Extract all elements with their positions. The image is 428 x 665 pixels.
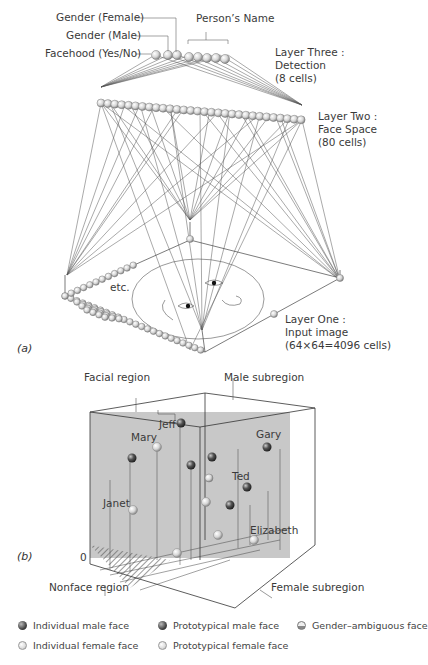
facial-region-label: Facial region <box>84 371 150 384</box>
persons-name-label: Person’s Name <box>196 12 274 25</box>
layer-three-label: Layer Three : Detection (8 cells) <box>275 46 345 85</box>
prototypical-male-point <box>208 453 217 462</box>
female-point <box>173 549 182 558</box>
layer3-to-layer2-connections <box>101 55 302 105</box>
individual-male-face-icon <box>18 621 27 630</box>
name-jeff: Jeff <box>159 418 176 431</box>
layer-two-cells <box>97 99 305 124</box>
name-mary: Mary <box>131 431 157 444</box>
network-diagram <box>65 55 340 352</box>
gender-ambiguous-point <box>205 474 213 482</box>
face-space-cube <box>90 378 315 608</box>
etc-label: etc. <box>110 281 130 294</box>
panel-a-label: (a) <box>17 342 32 355</box>
name-janet: Janet <box>103 497 130 510</box>
nonface-region-label: Nonface region <box>49 581 129 594</box>
male-point <box>128 454 137 463</box>
legend-prototypical-female: Prototypical female face <box>158 640 288 651</box>
name-ted: Ted <box>232 470 250 483</box>
gender-ambiguous-face-icon <box>297 621 306 630</box>
legend-prototypical-male: Prototypical male face <box>158 620 279 631</box>
layer-one-cells <box>62 262 204 353</box>
prototypical-female-face-icon <box>158 641 167 650</box>
gary-point <box>263 443 272 452</box>
legend-individual-female: Individual female face <box>18 640 138 651</box>
left-eye-pixel <box>186 304 190 308</box>
layer-three-cells <box>152 51 230 64</box>
name-gary: Gary <box>256 428 281 441</box>
female-point <box>214 531 223 540</box>
panel-b-label: (b) <box>17 550 33 563</box>
male-point <box>226 501 235 510</box>
facehood-label: Facehood (Yes/No) <box>45 47 141 60</box>
male-point <box>187 461 196 470</box>
legend-gender-ambiguous: Gender–ambiguous face <box>297 620 428 631</box>
origin-label: 0 <box>80 551 87 564</box>
ted-point <box>243 483 252 492</box>
layer-one-label: Layer One : Input image (64×64=4096 cell… <box>285 313 391 352</box>
gender-male-label: Gender (Male) <box>66 29 141 42</box>
gender-female-label: Gender (Female) <box>56 11 144 24</box>
jeff-point <box>177 419 186 428</box>
face-sketch <box>132 259 264 339</box>
prototypical-female-point <box>202 498 211 507</box>
female-subregion-label: Female subregion <box>271 581 364 594</box>
individual-female-face-icon <box>18 641 27 650</box>
male-subregion-label: Male subregion <box>224 371 304 384</box>
prototypical-male-face-icon <box>158 621 167 630</box>
legend-individual-male: Individual male face <box>18 620 129 631</box>
layer-two-label: Layer Two : Face Space (80 cells) <box>318 110 377 149</box>
name-elizabeth: Elizabeth <box>250 524 298 537</box>
right-eye-pixel <box>212 281 216 285</box>
